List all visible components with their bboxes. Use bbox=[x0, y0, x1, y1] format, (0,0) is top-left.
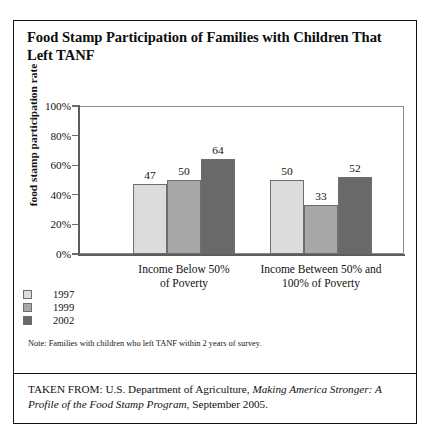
legend-swatch bbox=[23, 316, 32, 325]
bar bbox=[270, 180, 304, 254]
legend-label: 2002 bbox=[53, 315, 74, 326]
y-tick-mark bbox=[72, 253, 79, 254]
legend-label: 1997 bbox=[53, 289, 74, 300]
legend-item: 1997 bbox=[23, 289, 74, 301]
y-axis-spine bbox=[78, 105, 80, 255]
x-axis-spine bbox=[78, 254, 405, 256]
bar-chart: food stamp participation rate 0%20%40%60… bbox=[14, 66, 418, 288]
chart-legend: 199719992002 bbox=[23, 289, 74, 328]
y-tick-label: 40% bbox=[25, 189, 71, 201]
bar bbox=[304, 205, 338, 254]
y-tick-mark bbox=[72, 194, 79, 195]
y-tick-label: 60% bbox=[25, 159, 71, 171]
bar-value-label: 50 bbox=[167, 165, 201, 177]
y-tick-label: 100% bbox=[25, 100, 71, 112]
source-prefix: TAKEN FROM: U.S. Department of Agricultu… bbox=[28, 383, 252, 395]
x-category-label-line: 100% of Poverty bbox=[231, 276, 411, 290]
source-suffix: , September 2005. bbox=[187, 398, 268, 410]
bar bbox=[133, 184, 167, 254]
figure-title: Food Stamp Participation of Families wit… bbox=[27, 28, 405, 65]
bar bbox=[167, 180, 201, 254]
bar-value-label: 52 bbox=[338, 162, 372, 174]
y-tick-label: 20% bbox=[25, 218, 71, 230]
legend-item: 1999 bbox=[23, 302, 74, 314]
bar-value-label: 47 bbox=[133, 169, 167, 181]
figure-card: Food Stamp Participation of Families wit… bbox=[13, 20, 417, 424]
legend-item: 2002 bbox=[23, 315, 74, 327]
bar bbox=[338, 177, 372, 254]
bar-value-label: 50 bbox=[270, 165, 304, 177]
source-divider bbox=[14, 373, 416, 374]
y-tick-label: 0% bbox=[25, 248, 71, 260]
figure-source: TAKEN FROM: U.S. Department of Agricultu… bbox=[28, 382, 400, 412]
legend-label: 1999 bbox=[53, 302, 74, 313]
legend-swatch bbox=[23, 303, 32, 312]
x-category-label-line: Income Between 50% and bbox=[231, 262, 411, 276]
y-tick-mark bbox=[72, 105, 79, 106]
figure-note: Note: Families with children who left TA… bbox=[28, 339, 398, 350]
x-category-label: Income Between 50% and100% of Poverty bbox=[231, 262, 411, 290]
bar-value-label: 64 bbox=[201, 144, 235, 156]
bar bbox=[201, 159, 235, 254]
y-tick-label: 80% bbox=[25, 130, 71, 142]
legend-swatch bbox=[23, 290, 32, 299]
y-tick-mark bbox=[72, 224, 79, 225]
y-tick-mark bbox=[72, 135, 79, 136]
bar-value-label: 33 bbox=[304, 190, 338, 202]
y-tick-mark bbox=[72, 165, 79, 166]
